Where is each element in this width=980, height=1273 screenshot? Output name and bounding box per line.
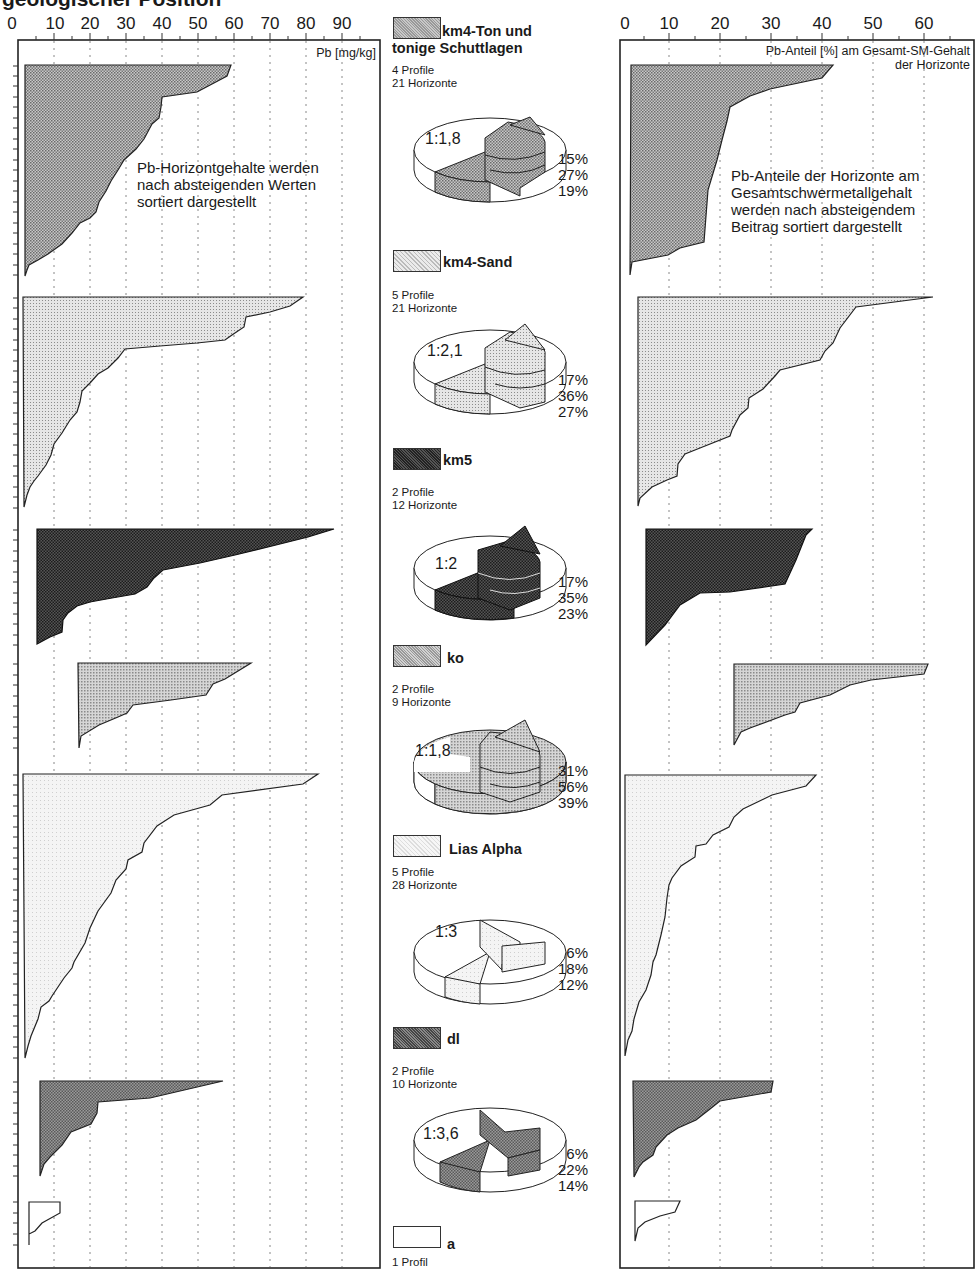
- left-chart-frame: [13, 33, 380, 1268]
- pie-ratio: 1:1,8: [415, 742, 451, 760]
- pie-percentages: 6% 22% 14%: [540, 1146, 588, 1194]
- pct-value: 56%: [540, 779, 588, 795]
- pie-ratio: 1:3,6: [423, 1125, 459, 1143]
- right-unit-label-line2: der Horizonte: [660, 58, 970, 72]
- right-area-km4-sand: [638, 297, 933, 506]
- legend-swatch-ko: [393, 645, 441, 667]
- pct-value: 14%: [540, 1178, 588, 1194]
- pct-value: 31%: [540, 763, 588, 779]
- pie-percentages: 31% 56% 39%: [540, 763, 588, 811]
- pct-value: 27%: [540, 167, 588, 183]
- pct-value: 17%: [540, 372, 588, 388]
- legend-name-km4-ton-line2: tonige Schuttlagen: [392, 40, 523, 57]
- legend-name-line: km4-Ton und: [442, 23, 532, 39]
- annotation-line: Pb-Anteile der Horizonte am: [731, 167, 919, 184]
- legend-swatch-km5: [393, 448, 441, 470]
- right-area-km5: [646, 529, 812, 645]
- pct-value: 6%: [540, 1146, 588, 1162]
- area-lias-alpha: [23, 774, 318, 1058]
- legend-name-km4-ton: km4-Ton und: [442, 23, 532, 40]
- legend-name-ko: ko: [447, 650, 464, 667]
- pct-value: 6%: [540, 945, 588, 961]
- annotation-line: sortiert dargestellt: [137, 193, 319, 210]
- pie-percentages: 6% 18% 12%: [540, 945, 588, 993]
- annotation-line: nach absteigenden Werten: [137, 176, 319, 193]
- pie-ratio: 1:2,1: [427, 342, 463, 360]
- legend-swatch-a: [393, 1226, 441, 1248]
- pct-value: 22%: [540, 1162, 588, 1178]
- right-annotation: Pb-Anteile der Horizonte am Gesamtschwer…: [731, 167, 919, 235]
- legend-profiles: 2 Profile: [392, 486, 434, 499]
- annotation-line: Beitrag sortiert dargestellt: [731, 218, 919, 235]
- legend-profiles: 2 Profile: [392, 1065, 434, 1078]
- legend-name-km4-sand: km4-Sand: [443, 254, 512, 271]
- legend-profiles: 2 Profile: [392, 683, 434, 696]
- pct-value: 39%: [540, 795, 588, 811]
- pie-ratio: 1:2: [435, 555, 457, 573]
- pct-value: 18%: [540, 961, 588, 977]
- pie-percentages: 15% 27% 19%: [540, 151, 588, 199]
- annotation-line: Gesamtschwermetallgehalt: [731, 184, 919, 201]
- right-area-dl: [633, 1081, 773, 1177]
- right-area-lias: [625, 775, 816, 1056]
- area-km5: [37, 529, 334, 644]
- pct-value: 35%: [540, 590, 588, 606]
- legend-profiles: 4 Profile: [392, 64, 434, 77]
- legend-name-a: a: [447, 1236, 455, 1253]
- legend-swatch-km4-sand: [393, 250, 441, 272]
- pct-value: 12%: [540, 977, 588, 993]
- right-area-ko: [734, 664, 928, 745]
- pie-ratio: 1:3: [435, 923, 457, 941]
- legend-profiles: 5 Profile: [392, 866, 434, 879]
- pie-percentages: 17% 35% 23%: [540, 574, 588, 622]
- area-ko: [78, 663, 251, 748]
- legend-swatch-km4-ton: [393, 17, 441, 39]
- pct-value: 17%: [540, 574, 588, 590]
- legend-name-km5: km5: [443, 452, 472, 469]
- legend-horizons: 12 Horizonte: [392, 499, 457, 512]
- pct-value: 19%: [540, 183, 588, 199]
- legend-name-dl: dl: [447, 1031, 460, 1048]
- annotation-line: werden nach absteigendem: [731, 201, 919, 218]
- legend-swatch-lias-alpha: [393, 835, 441, 857]
- legend-profiles: 5 Profile: [392, 289, 434, 302]
- legend-horizons: 28 Horizonte: [392, 879, 457, 892]
- pie-percentages: 17% 36% 27%: [540, 372, 588, 420]
- area-dl: [40, 1081, 223, 1176]
- legend-horizons: 21 Horizonte: [392, 302, 457, 315]
- area-a: [29, 1202, 60, 1245]
- annotation-line: Pb-Horizontgehalte werden: [137, 159, 319, 176]
- right-unit-label: Pb-Anteil [%] am Gesamt-SM-Gehalt der Ho…: [660, 44, 970, 72]
- right-area-a: [635, 1201, 680, 1241]
- legend-profiles: 1 Profil: [392, 1256, 428, 1269]
- pct-value: 36%: [540, 388, 588, 404]
- pct-value: 15%: [540, 151, 588, 167]
- right-unit-label-line1: Pb-Anteil [%] am Gesamt-SM-Gehalt: [660, 44, 970, 58]
- pie-ratio: 1:1,8: [425, 130, 461, 148]
- legend-name-lias-alpha: Lias Alpha: [449, 841, 522, 858]
- left-unit-label: Pb [mg/kg]: [280, 46, 376, 60]
- legend-horizons: 21 Horizonte: [392, 77, 457, 90]
- area-km4-sand: [23, 297, 303, 507]
- legend-swatch-dl: [393, 1027, 441, 1049]
- legend-horizons: 10 Horizonte: [392, 1078, 457, 1091]
- pct-value: 27%: [540, 404, 588, 420]
- legend-horizons: 9 Horizonte: [392, 696, 451, 709]
- pct-value: 23%: [540, 606, 588, 622]
- left-annotation: Pb-Horizontgehalte werden nach absteigen…: [137, 159, 319, 210]
